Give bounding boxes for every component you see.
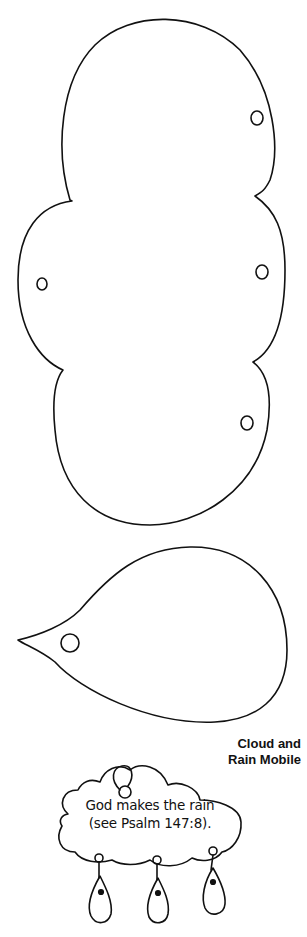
caption-line-2: Rain Mobile [228,752,301,768]
example-verse: God makes the rain (see Psalm 147:8). [60,796,240,832]
caption-line-1: Cloud and [228,736,301,752]
template-caption: Cloud and Rain Mobile [228,736,301,768]
cloud-hole-bottom-right [241,416,253,430]
verse-line-2: (see Psalm 147:8). [60,814,240,832]
cloud-hole-top-right [251,111,263,125]
raindrop-left [89,854,111,923]
cloud-hole-middle-right [256,265,268,279]
raindrop-right [203,847,225,914]
cloud-pattern-outline [18,19,285,525]
raindrop-hole [61,634,79,652]
cloud-hole-left [37,278,47,290]
raindrop-pattern-outline [18,547,287,722]
verse-line-1: God makes the rain [60,796,240,814]
